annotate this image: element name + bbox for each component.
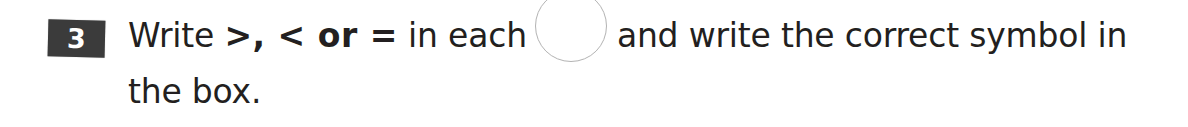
question-text-line-1: Write >, < or = in eachand write the cor… xyxy=(128,8,1178,64)
instruction-text-part-b: in each xyxy=(398,8,527,64)
question-number-label: 3 xyxy=(48,19,106,57)
question-text-line-2: the box. xyxy=(128,64,1178,120)
question-text: Write >, < or = in eachand write the cor… xyxy=(128,8,1178,120)
answer-circle[interactable] xyxy=(535,0,607,62)
instruction-text-part-a: Write xyxy=(128,8,224,64)
instruction-text-line-2: the box. xyxy=(128,64,261,120)
worksheet-question-block: 3 Write >, < or = in eachand write the c… xyxy=(0,0,1188,127)
comparison-operators-text: >, < or = xyxy=(224,8,397,64)
question-number-badge: 3 xyxy=(48,19,106,57)
instruction-text-part-c: and write the correct symbol in xyxy=(617,8,1127,64)
